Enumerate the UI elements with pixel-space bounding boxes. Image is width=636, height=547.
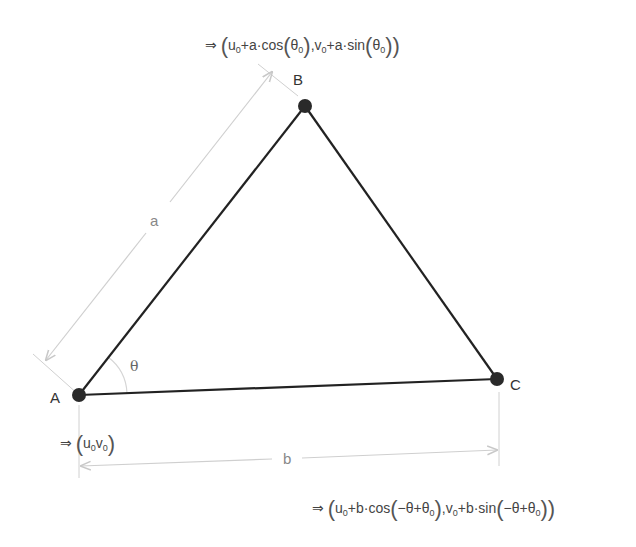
implies-arrow: ⇒ [60, 435, 72, 451]
formula-b: ⇒ (u0+a·cos(θ0),v0+a·sin(θ0)) [205, 35, 400, 57]
formula-c: ⇒ (u0+b·cos(−θ+θ0),v0+b·sin(−θ+θ0)) [312, 498, 555, 520]
vertex-c [490, 372, 504, 386]
implies-arrow: ⇒ [205, 37, 217, 53]
vertex-label-c: C [510, 377, 521, 392]
formula-a: ⇒ (u0v0) [60, 433, 115, 455]
angle-label-theta: θ [130, 358, 138, 374]
vertex-label-b: B [293, 72, 303, 87]
vertex-label-a: A [50, 390, 60, 405]
side-label-a: a [146, 213, 162, 228]
vertex-b [298, 99, 312, 113]
triangle-edges [79, 106, 497, 395]
triangle-diagram [0, 0, 636, 547]
dimension-a [33, 64, 298, 395]
vertex-a [72, 388, 86, 402]
implies-arrow: ⇒ [312, 500, 324, 516]
angle-arc [108, 357, 127, 393]
side-label-b: b [279, 451, 295, 466]
